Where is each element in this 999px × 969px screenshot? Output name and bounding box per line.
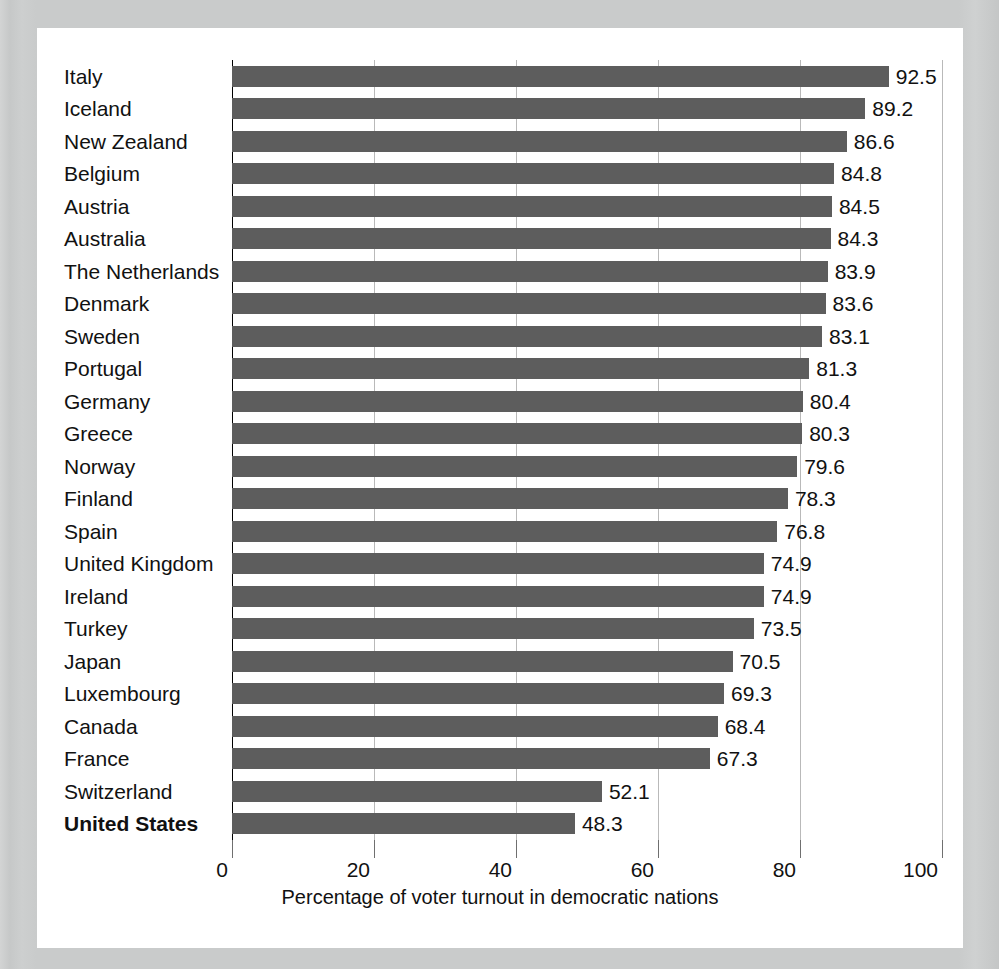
bar-value-label: 48.3 <box>582 813 623 834</box>
category-label: Switzerland <box>64 781 173 802</box>
category-label-row: France <box>37 743 223 776</box>
category-label-row: Turkey <box>37 613 223 646</box>
category-label: Germany <box>64 391 150 412</box>
category-label-row: Sweden <box>37 320 223 353</box>
bar-row: 70.5 <box>232 645 942 678</box>
category-axis-labels: ItalyIcelandNew ZealandBelgiumAustriaAus… <box>37 60 223 840</box>
x-axis: 020406080100 <box>232 840 942 890</box>
bar-value-label: 81.3 <box>816 358 857 379</box>
category-label-row: Canada <box>37 710 223 743</box>
category-label-row: The Netherlands <box>37 255 223 288</box>
bar-row: 74.9 <box>232 548 942 581</box>
bar <box>232 748 710 769</box>
bar-row: 52.1 <box>232 775 942 808</box>
bar-value-label: 86.6 <box>854 131 895 152</box>
bar-row: 84.3 <box>232 223 942 256</box>
category-label-row: Switzerland <box>37 775 223 808</box>
category-label: Iceland <box>64 98 132 119</box>
bar-row: 79.6 <box>232 450 942 483</box>
bar-value-label: 74.9 <box>771 553 812 574</box>
bar <box>232 261 828 282</box>
voter-turnout-bar-chart: ItalyIcelandNew ZealandBelgiumAustriaAus… <box>37 28 963 948</box>
bar <box>232 553 764 574</box>
bar-value-label: 73.5 <box>761 618 802 639</box>
category-label: New Zealand <box>64 131 188 152</box>
bar <box>232 618 754 639</box>
category-label-row: Denmark <box>37 288 223 321</box>
category-label-row: Austria <box>37 190 223 223</box>
bar-row: 76.8 <box>232 515 942 548</box>
category-label: United Kingdom <box>64 553 213 574</box>
bar-value-label: 84.5 <box>839 196 880 217</box>
category-label-row: Finland <box>37 483 223 516</box>
x-tick-40 <box>516 840 517 858</box>
category-label: Turkey <box>64 618 127 639</box>
x-tick-label: 60 <box>631 858 658 881</box>
bar-value-label: 70.5 <box>740 651 781 672</box>
category-label: Norway <box>64 456 135 477</box>
bar <box>232 651 733 672</box>
bar <box>232 813 575 834</box>
bar-row: 80.4 <box>232 385 942 418</box>
category-label: The Netherlands <box>64 261 219 282</box>
category-label-row: Norway <box>37 450 223 483</box>
category-label: Italy <box>64 66 103 87</box>
category-label: Japan <box>64 651 121 672</box>
category-label: United States <box>64 813 198 834</box>
category-label-row: Spain <box>37 515 223 548</box>
category-label: Ireland <box>64 586 128 607</box>
category-label-row: Ireland <box>37 580 223 613</box>
bar <box>232 716 718 737</box>
category-label-row: United Kingdom <box>37 548 223 581</box>
category-label-row: Iceland <box>37 93 223 126</box>
bar-rows: 92.589.286.684.884.584.383.983.683.181.3… <box>232 60 942 840</box>
bar-row: 68.4 <box>232 710 942 743</box>
bar-row: 69.3 <box>232 678 942 711</box>
category-label: Austria <box>64 196 129 217</box>
bar <box>232 358 809 379</box>
bar <box>232 98 865 119</box>
bar-value-label: 83.9 <box>835 261 876 282</box>
bar <box>232 456 797 477</box>
bar-value-label: 67.3 <box>717 748 758 769</box>
bar <box>232 683 724 704</box>
category-label-row: New Zealand <box>37 125 223 158</box>
x-tick-0 <box>232 840 233 858</box>
category-label-row: Belgium <box>37 158 223 191</box>
bar-row: 81.3 <box>232 353 942 386</box>
bar-value-label: 78.3 <box>795 488 836 509</box>
category-label: Australia <box>64 228 146 249</box>
bar-row: 74.9 <box>232 580 942 613</box>
category-label-row: Luxembourg <box>37 678 223 711</box>
bar-value-label: 52.1 <box>609 781 650 802</box>
bar-value-label: 80.4 <box>810 391 851 412</box>
bar-row: 48.3 <box>232 808 942 841</box>
category-label: Finland <box>64 488 133 509</box>
bar <box>232 163 834 184</box>
bar-row: 78.3 <box>232 483 942 516</box>
bar <box>232 521 777 542</box>
bar <box>232 66 889 87</box>
category-label: Belgium <box>64 163 140 184</box>
bar-row: 84.8 <box>232 158 942 191</box>
category-label-row: Portugal <box>37 353 223 386</box>
plot-area: 92.589.286.684.884.584.383.983.683.181.3… <box>232 60 942 840</box>
bar-value-label: 89.2 <box>872 98 913 119</box>
bar <box>232 326 822 347</box>
bar-value-label: 69.3 <box>731 683 772 704</box>
bar-row: 84.5 <box>232 190 942 223</box>
x-tick-label: 20 <box>347 858 374 881</box>
x-tick-20 <box>374 840 375 858</box>
bar-value-label: 68.4 <box>725 716 766 737</box>
category-label: Luxembourg <box>64 683 181 704</box>
category-label: Sweden <box>64 326 140 347</box>
x-tick-60 <box>658 840 659 858</box>
chart-panel: ItalyIcelandNew ZealandBelgiumAustriaAus… <box>37 28 963 948</box>
bar-value-label: 84.8 <box>841 163 882 184</box>
bar-row: 80.3 <box>232 418 942 451</box>
bar-value-label: 83.6 <box>833 293 874 314</box>
bar <box>232 131 847 152</box>
x-tick-label: 100 <box>903 858 942 881</box>
bar-row: 73.5 <box>232 613 942 646</box>
screenshot-root: ItalyIcelandNew ZealandBelgiumAustriaAus… <box>0 0 999 969</box>
